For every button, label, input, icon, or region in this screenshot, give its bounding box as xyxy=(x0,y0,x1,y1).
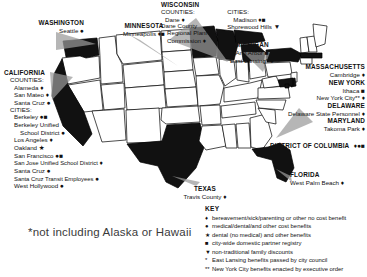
region-texas: TEXAS Travis County ♦ xyxy=(174,186,236,201)
symbol-group: ▼ xyxy=(274,23,280,30)
list-item: Alameda ♦ xyxy=(14,84,103,92)
legend-text: city-wide domestic partner registry xyxy=(212,240,301,246)
entry-label: Oakland xyxy=(14,144,37,151)
entry-label: Madison xyxy=(233,16,256,23)
state-label-florida: FLORIDA xyxy=(290,172,344,179)
symbol-group: ■ xyxy=(361,87,365,94)
state-label-maryland: MARYLAND xyxy=(250,118,365,125)
symbol-group: ● xyxy=(47,99,51,106)
legend-text: East Lansing benefits passed by city cou… xyxy=(212,257,327,263)
entry-label: Commission xyxy=(167,37,201,44)
region-east-coast-group: MASSACHUSETTS Cambridge ♦ NEW YORK Ithac… xyxy=(250,64,365,151)
symbol-group: ♦ xyxy=(40,84,43,91)
list-item: Travis County ♦ xyxy=(174,193,236,201)
legend-text: dental (no medical) and other benefits xyxy=(212,232,311,238)
california-cities-heading: CITIES: xyxy=(10,107,103,114)
symbol-group: ●■ xyxy=(40,113,48,120)
symbol-group: ● xyxy=(61,129,65,136)
list-item: Berkeley Unified xyxy=(14,121,103,129)
list-item: School District ● xyxy=(20,129,103,137)
state-label-delaware: DELAWARE xyxy=(250,103,365,110)
list-item: New York City** ♦ xyxy=(250,94,365,102)
list-item: Oakland ★ xyxy=(14,144,103,152)
list-item: Santa Cruz ● xyxy=(14,167,103,175)
wisconsin-cities-heading: CITIES: xyxy=(227,9,280,16)
entry-label: Santa Cruz xyxy=(14,167,45,174)
list-item: Berkeley ●■ xyxy=(14,113,103,121)
symbol-group: ● xyxy=(60,182,64,189)
legend-text: medical/dental/and other cost benefits xyxy=(212,223,311,229)
entry-label: School District xyxy=(20,129,60,136)
symbol-group: ♦ xyxy=(99,159,102,166)
legend-text: New York City benefits enacted by execut… xyxy=(212,266,343,272)
entry-label: Travis County xyxy=(184,193,222,200)
entry-label: Cambridge xyxy=(330,71,360,78)
legend-symbol: * xyxy=(205,256,212,265)
entry-label: New York City** xyxy=(317,94,360,101)
list-item: Regional Planning xyxy=(167,30,217,37)
state-label-texas: TEXAS xyxy=(174,186,236,193)
entry-label: San Francisco xyxy=(14,152,54,159)
symbol-group: ♦ xyxy=(362,110,365,117)
legend-symbol: ▼ xyxy=(205,248,212,257)
legend-item: ▼non-traditional family discounts xyxy=(205,248,365,257)
list-item: Cambridge ♦ xyxy=(250,71,365,79)
legend-item: ★dental (no medical) and other benefits xyxy=(205,231,365,240)
entry-label: Ithaca xyxy=(342,87,359,94)
legend: KEY ♦bereavement/sick/parenting or other… xyxy=(205,205,365,273)
list-item: Delaware State Personnel ♦ xyxy=(250,110,365,118)
entry-label: Santa Cruz xyxy=(14,99,45,106)
wisconsin-counties-heading: COUNTIES: xyxy=(161,9,217,16)
region-florida: FLORIDA West Palm Beach ♦ xyxy=(290,172,344,187)
entry-seattle: Seattle ● xyxy=(6,27,84,35)
entry-label: Los Angeles xyxy=(14,136,48,143)
entry-label: Regional Planning xyxy=(167,29,217,36)
list-item: Ithaca ■ xyxy=(250,87,365,95)
symbol-group: ● xyxy=(47,167,51,174)
legend-item: *East Lansing benefits passed by city co… xyxy=(205,256,365,265)
symbol-group: ♦ xyxy=(46,91,49,98)
entry-label: West Palm Beach xyxy=(290,179,339,186)
entry-label: Seattle xyxy=(59,27,78,34)
entry-label: Alameda xyxy=(14,84,38,91)
legend-symbol: ★ xyxy=(205,231,212,240)
list-item: Shorewood Hills ▼ xyxy=(227,23,280,31)
state-label-dc: DISTRICT OF COLUMBIA xyxy=(270,142,349,149)
entry-label: Santa Cruz Transit Employees xyxy=(14,176,94,182)
list-item: Ann Arbor ■ xyxy=(216,49,288,57)
list-item: Los Angeles ♦ xyxy=(14,136,103,144)
us-map-infographic: WASHINGTON Seattle ● CALIFORNIA COUNTIES… xyxy=(0,0,367,277)
list-item: West Hollywood ● xyxy=(14,182,103,190)
symbol-group: ♦●■ xyxy=(354,142,365,149)
symbol-group: ● xyxy=(270,57,274,64)
state-label-washington: WASHINGTON xyxy=(6,20,84,27)
state-label-massachusetts: MASSACHUSETTS xyxy=(250,64,365,71)
legend-item: ♦bereavement/sick/parenting or other no … xyxy=(205,214,365,223)
symbol-group: ♦■ xyxy=(258,16,265,23)
disclaimer-note: *not including Alaska or Hawaii xyxy=(28,226,191,238)
list-item: Takoma Park ♦ xyxy=(250,125,365,133)
legend-item: **New York City benefits enacted by exec… xyxy=(205,265,365,274)
list-item: Santa Cruz Transit Employees ● xyxy=(14,175,103,182)
california-counties-heading: COUNTIES: xyxy=(10,77,103,84)
symbol-group: ♦ xyxy=(49,136,52,143)
region-wisconsin: WISCONSIN COUNTIES: Dane ♦ Dane County R… xyxy=(155,2,280,44)
entry-label: Shorewood Hills xyxy=(227,23,272,30)
symbol-group: ★ xyxy=(39,144,45,151)
symbol-group: ■ xyxy=(265,49,269,56)
list-item: Commission ♦ xyxy=(167,37,217,45)
entry-label: Delaware State Personnel xyxy=(288,110,360,117)
symbol-group: ♦ xyxy=(203,37,206,44)
entry-label: Berkeley xyxy=(14,113,38,120)
list-item: San Francisco ●■ xyxy=(14,152,103,160)
legend-item: ●medical/dental/and other cost benefits xyxy=(205,222,365,231)
symbol-group: ♦ xyxy=(362,125,365,132)
entry-label: San Jose Unified School District xyxy=(14,160,98,166)
region-district-of-columbia: DISTRICT OF COLUMBIA ♦●■ xyxy=(250,134,365,151)
entry-label: San Mateo xyxy=(14,91,44,98)
legend-symbol: ■ xyxy=(205,239,212,248)
symbol-group: ♦ xyxy=(362,94,365,101)
symbol-group: ● xyxy=(80,27,84,34)
symbol-group: ●■ xyxy=(55,152,63,159)
list-item: San Jose Unified School District ♦ xyxy=(14,159,103,166)
